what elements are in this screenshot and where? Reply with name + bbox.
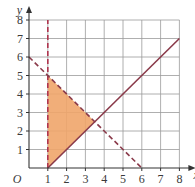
origin-label: O [13,172,22,186]
x-tick-label: 7 [158,172,164,186]
y-tick-label: 2 [17,124,23,138]
y-tick-label: 3 [17,106,23,120]
x-tick-label: 6 [139,172,145,186]
y-axis-arrow-icon [26,6,32,13]
x-tick-label: 3 [82,172,88,186]
y-tick-label: 6 [17,50,23,64]
y-axis-label: y [16,3,23,17]
y-tick-label: 5 [17,69,23,83]
x-tick-label: 4 [101,172,107,186]
x-tick-label: 1 [45,172,51,186]
x-tick-label: 5 [120,172,126,186]
x-tick-label: 8 [176,172,182,186]
x-axis-label: x [192,168,195,182]
y-tick-label: 1 [17,143,23,157]
coordinate-plot: 1234567812345678Oxy [0,0,195,187]
x-tick-label: 2 [64,172,70,186]
y-tick-label: 4 [17,87,23,101]
shaded-feasible-region [48,76,95,169]
y-tick-label: 7 [17,32,23,46]
